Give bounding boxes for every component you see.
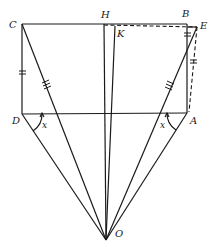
segment-ho: [104, 24, 106, 240]
label-o: O: [115, 228, 123, 239]
label-h: H: [100, 9, 110, 20]
label-a: A: [189, 115, 197, 126]
label-c: C: [9, 19, 17, 30]
segment-eo: [106, 27, 197, 240]
segment-ao: [106, 113, 187, 240]
segment-ko: [106, 26, 115, 240]
label-angle-x-a: x: [160, 120, 165, 130]
geometry-diagram: C H K B E D A O x x: [0, 0, 215, 251]
label-d: D: [11, 115, 20, 126]
label-angle-x-d: x: [42, 120, 47, 130]
segment-ce-dashed: [104, 25, 197, 27]
label-b: B: [181, 8, 189, 19]
segment-ea-dashed: [189, 27, 197, 112]
label-e: E: [199, 20, 208, 31]
label-k: K: [116, 28, 125, 39]
tick-marks-co: [42, 80, 51, 89]
